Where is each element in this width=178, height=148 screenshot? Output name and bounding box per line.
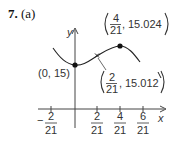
svg-text:15.012: 15.012: [125, 77, 159, 89]
tick-label-neg-2-21: − 2 21: [37, 110, 57, 136]
tick-label-2-21: 2 21: [91, 110, 103, 136]
svg-text:21: 21: [137, 124, 149, 136]
svg-text:,: ,: [119, 77, 122, 89]
svg-text:21: 21: [45, 124, 57, 136]
svg-text:,: ,: [122, 18, 125, 30]
local-max-dot: [117, 43, 122, 48]
local-max-label: 4 21 , 15.024: [105, 12, 168, 36]
inflection-leader-line: [98, 58, 106, 70]
svg-text:2: 2: [109, 71, 115, 83]
inflection-label: 2 21 , 15.012: [101, 71, 164, 95]
svg-text:−: −: [37, 114, 43, 126]
svg-text:15.024: 15.024: [128, 18, 162, 30]
svg-text:4: 4: [113, 12, 119, 24]
svg-text:2: 2: [94, 110, 100, 122]
svg-text:6: 6: [140, 110, 146, 122]
svg-text:21: 21: [106, 83, 118, 95]
tick-label-4-21: 4 21: [114, 110, 126, 136]
y-axis: [72, 28, 78, 128]
svg-text:21: 21: [114, 124, 126, 136]
svg-text:4: 4: [117, 110, 123, 122]
svg-text:21: 21: [91, 124, 103, 136]
point-label-0-15: (0, 15): [38, 67, 70, 79]
svg-text:21: 21: [110, 24, 122, 36]
svg-text:2: 2: [48, 110, 54, 122]
point-0-15-dot: [72, 62, 77, 67]
x-axis: [38, 106, 166, 112]
graph: y x (0, 15) 4 21 , 15.024 2 21 , 15.012 …: [0, 0, 178, 148]
tick-label-6-21: 6 21: [137, 110, 149, 136]
x-axis-label: x: [157, 112, 164, 124]
